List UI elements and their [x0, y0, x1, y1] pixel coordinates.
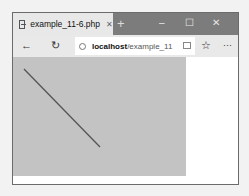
back-button[interactable]: ← [21, 39, 32, 52]
reading-view-icon[interactable] [183, 42, 191, 49]
title-bar: example_11-6.php ✕ + – ☐ ✕ [13, 13, 238, 35]
url-path: /example_11 [127, 42, 172, 51]
refresh-button[interactable]: ↻ [51, 39, 60, 52]
line-drawing [13, 57, 186, 176]
drawing-canvas [13, 57, 186, 176]
browser-window: example_11-6.php ✕ + – ☐ ✕ ← ↻ localhost… [12, 12, 239, 185]
close-window-button[interactable]: ✕ [212, 17, 220, 29]
close-tab-icon[interactable]: ✕ [106, 20, 113, 29]
url-host: localhost [92, 42, 127, 51]
address-bar[interactable]: localhost/example_11 [75, 37, 195, 55]
minimize-button[interactable]: – [159, 17, 165, 29]
tab-title: example_11-6.php [30, 19, 100, 29]
url-text: localhost/example_11 [92, 42, 172, 51]
page-content [13, 57, 238, 184]
more-button[interactable]: ··· [223, 39, 232, 52]
diagonal-line [24, 69, 100, 147]
new-tab-button[interactable]: + [117, 16, 125, 31]
browser-tab[interactable]: example_11-6.php ✕ [13, 13, 113, 35]
page-icon [19, 20, 25, 29]
favorite-button[interactable]: ☆ [201, 39, 211, 52]
info-icon[interactable] [79, 43, 86, 50]
maximize-button[interactable]: ☐ [185, 17, 194, 29]
navigation-toolbar: ← ↻ localhost/example_11 ☆ ··· [13, 35, 238, 57]
